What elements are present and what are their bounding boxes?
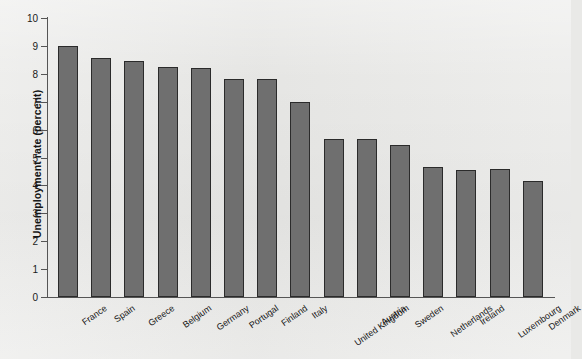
- bar: [158, 67, 178, 297]
- bar: [290, 102, 310, 297]
- y-tick-label: 1: [32, 264, 38, 275]
- bar: [523, 181, 543, 297]
- x-axis-label: Germany: [214, 303, 250, 332]
- bar: [257, 79, 277, 297]
- y-tick-label: 8: [32, 68, 38, 79]
- y-tick-label: 3: [32, 208, 38, 219]
- x-axis-label: Greece: [147, 303, 177, 328]
- y-tick-mark: [41, 297, 48, 298]
- y-tick-mark: [41, 158, 48, 159]
- y-tick-label: 4: [32, 180, 38, 191]
- bar: [324, 139, 344, 297]
- y-tick-label: 10: [27, 13, 38, 24]
- bar: [456, 170, 476, 297]
- y-tick-label: 2: [32, 236, 38, 247]
- bar: [490, 169, 510, 297]
- y-tick-mark: [41, 18, 48, 19]
- y-tick-mark: [41, 213, 48, 214]
- bar: [224, 79, 244, 297]
- x-axis-label: Portugal: [247, 303, 280, 330]
- y-tick-label: 5: [32, 152, 38, 163]
- x-axis-label: Belgium: [180, 303, 212, 330]
- y-tick-label: 6: [32, 124, 38, 135]
- x-axis-line: [47, 297, 555, 298]
- plot-area: 109876543210: [48, 18, 555, 297]
- y-tick-mark: [41, 269, 48, 270]
- x-axis-label: Spain: [112, 303, 137, 324]
- y-tick-mark: [41, 130, 48, 131]
- x-axis-label: France: [80, 303, 109, 327]
- y-tick-label: 7: [32, 96, 38, 107]
- y-tick-mark: [41, 46, 48, 47]
- x-axis-label: Italy: [310, 303, 329, 321]
- bar: [124, 61, 144, 297]
- bar: [191, 68, 211, 297]
- y-tick-mark: [41, 102, 48, 103]
- y-tick-mark: [41, 241, 48, 242]
- bar: [423, 167, 443, 297]
- bar: [91, 58, 111, 297]
- y-tick-mark: [41, 74, 48, 75]
- x-axis-label: Sweden: [413, 303, 445, 330]
- x-axis-label: Finland: [280, 303, 310, 328]
- y-tick-mark: [41, 185, 48, 186]
- bar: [390, 145, 410, 297]
- bar: [58, 46, 78, 297]
- bar: [357, 139, 377, 297]
- y-tick-label: 9: [32, 40, 38, 51]
- y-tick-label: 0: [32, 292, 38, 303]
